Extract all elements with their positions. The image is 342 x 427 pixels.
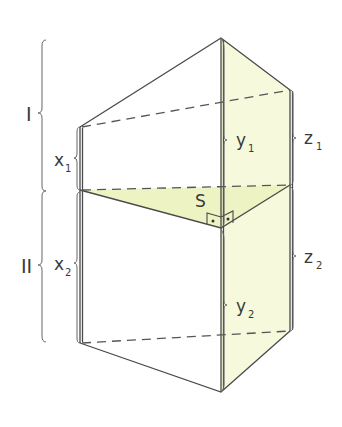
label-y2-subscript: 2 bbox=[248, 309, 254, 320]
label-x2: x bbox=[54, 254, 64, 274]
right-angle-dot-left bbox=[212, 220, 215, 223]
right-angle-dot-right bbox=[227, 218, 230, 221]
label-section-II: II bbox=[21, 255, 32, 277]
label-z1-subscript: 1 bbox=[316, 141, 322, 152]
prism-diagram: I II x 1 x 2 y 1 y 2 z 1 z 2 S bbox=[0, 0, 342, 427]
label-y1: y bbox=[236, 130, 246, 150]
label-point-s: S bbox=[195, 191, 206, 211]
label-x2-subscript: 2 bbox=[65, 267, 71, 278]
label-z1: z bbox=[304, 128, 313, 148]
label-section-I: I bbox=[26, 103, 32, 125]
label-z2: z bbox=[304, 247, 313, 267]
label-x1: x bbox=[54, 150, 64, 170]
label-y1-subscript: 1 bbox=[248, 143, 254, 154]
label-z2-subscript: 2 bbox=[316, 260, 322, 271]
brace-section-II bbox=[38, 191, 46, 342]
brace-x2 bbox=[74, 192, 80, 343]
label-x1-subscript: 1 bbox=[65, 163, 71, 174]
brace-section-I bbox=[38, 40, 46, 191]
label-y2: y bbox=[236, 296, 246, 316]
brace-x1 bbox=[74, 127, 80, 190]
brace-z2 bbox=[290, 187, 296, 331]
